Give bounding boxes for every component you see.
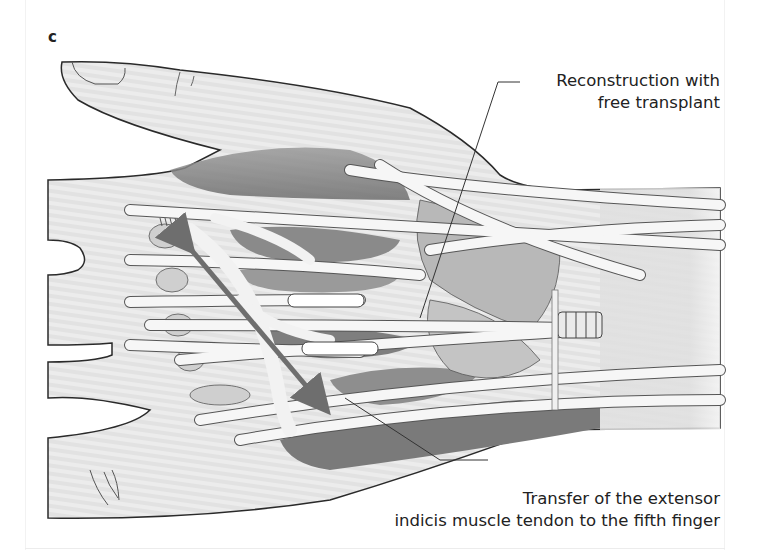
panel-label: c [48, 28, 57, 46]
annotation-transfer-line-1: Transfer of the extensor [394, 488, 720, 510]
annotation-transfer-line-2: indicis muscle tendon to the fifth finge… [394, 510, 720, 532]
annotation-reconstruction: Reconstruction with free transplant [556, 70, 720, 114]
extensor-retinaculum [552, 290, 558, 410]
annotation-reconstruction-line-2: free transplant [556, 92, 720, 114]
annotation-reconstruction-line-1: Reconstruction with [556, 70, 720, 92]
figure-bottom-border [25, 548, 725, 549]
annotation-transfer: Transfer of the extensor indicis muscle … [394, 488, 720, 532]
